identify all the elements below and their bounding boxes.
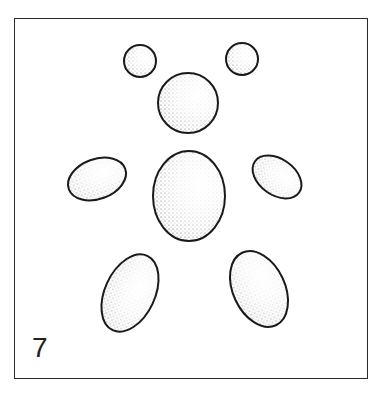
left-arm-shape (62, 150, 132, 208)
right-arm-shape (245, 147, 310, 207)
left-leg-shape (90, 245, 170, 340)
body-shape (153, 151, 225, 241)
head-shape (158, 73, 218, 133)
right-leg-shape (219, 242, 300, 336)
right-ear-shape (226, 43, 258, 75)
left-ear-shape (124, 45, 156, 77)
figure-drawing (0, 0, 381, 393)
figure-number-label: 7 (32, 334, 48, 362)
